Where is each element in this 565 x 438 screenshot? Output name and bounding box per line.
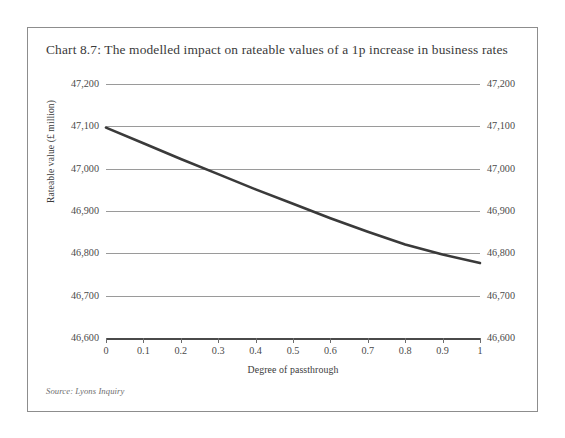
x-tick-mark (143, 338, 144, 343)
x-tick-mark (443, 338, 444, 343)
x-tick-mark (106, 338, 107, 343)
x-axis-title: Degree of passthrough (106, 364, 480, 375)
y-axis-title: Rateable value (£ million) (45, 100, 56, 203)
gridline (106, 296, 480, 297)
gridline (106, 211, 480, 212)
y-tick-label-right: 46,700 (487, 291, 515, 301)
y-tick-label-right: 46,600 (487, 333, 515, 343)
source-note: Source: Lyons Inquiry (46, 386, 124, 396)
y-tick-label-right: 47,200 (487, 79, 515, 89)
x-tick-mark (293, 338, 294, 343)
x-tick-mark (330, 338, 331, 343)
x-tick-label: 0.2 (174, 346, 187, 356)
x-tick-label: 0.8 (399, 346, 412, 356)
y-tick-label-right: 47,100 (487, 121, 515, 131)
y-tick-label-left: 47,200 (71, 79, 99, 89)
x-tick-mark (480, 338, 481, 343)
y-tick-label-left: 47,000 (71, 164, 99, 174)
y-tick-label-right: 46,800 (487, 248, 515, 258)
x-tick-mark (181, 338, 182, 343)
x-tick-label: 0.7 (361, 346, 374, 356)
x-tick-label: 0 (103, 346, 108, 356)
gridline (106, 253, 480, 254)
gridline (106, 84, 480, 85)
x-tick-mark (368, 338, 369, 343)
y-tick-label-right: 46,900 (487, 206, 515, 216)
x-tick-mark (405, 338, 406, 343)
x-tick-label: 0.4 (249, 346, 262, 356)
x-tick-label: 0.3 (212, 346, 225, 356)
gridline (106, 126, 480, 127)
series-line-rateable-value (106, 128, 480, 263)
x-tick-label: 0.1 (137, 346, 150, 356)
y-tick-label-left: 46,600 (71, 333, 99, 343)
x-tick-label: 0.9 (436, 346, 449, 356)
x-tick-label: 0.6 (324, 346, 337, 356)
gridline (106, 169, 480, 170)
y-tick-label-left: 46,700 (71, 291, 99, 301)
y-tick-label-left: 47,100 (71, 121, 99, 131)
x-tick-label: 0.5 (287, 346, 300, 356)
y-tick-label-left: 46,800 (71, 248, 99, 258)
y-tick-label-right: 47,000 (487, 164, 515, 174)
chart-figure: Chart 8.7: The modelled impact on rateab… (27, 27, 538, 412)
plot-area: 46,60046,60046,70046,70046,80046,80046,9… (106, 84, 480, 338)
x-tick-mark (256, 338, 257, 343)
chart-title: Chart 8.7: The modelled impact on rateab… (46, 42, 524, 58)
y-tick-label-left: 46,900 (71, 206, 99, 216)
x-tick-mark (218, 338, 219, 343)
x-tick-label: 1 (477, 346, 482, 356)
